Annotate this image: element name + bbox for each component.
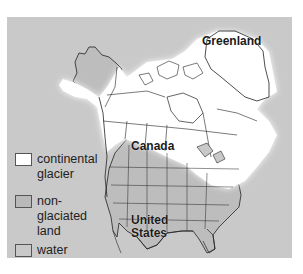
label-united-states: United States [131,214,168,240]
legend-label: glaciated [37,209,87,224]
label-states: States [131,227,168,240]
legend-label: land [37,224,87,239]
legend-label: continental [37,152,97,167]
legend-item-continental-glacier: continental glacier [15,152,97,182]
label-canada: Canada [131,140,174,153]
label-greenland: Greenland [202,35,261,48]
legend-label: water [37,243,68,258]
legend-item-non-glaciated-land: non- glaciated land [15,194,87,239]
legend-label: non- [37,194,87,209]
legend-item-water: water [15,243,68,258]
swatch-continental-glacier [15,153,32,166]
swatch-water [15,244,32,257]
legend-label: glacier [37,167,97,182]
swatch-non-glaciated-land [15,195,32,208]
